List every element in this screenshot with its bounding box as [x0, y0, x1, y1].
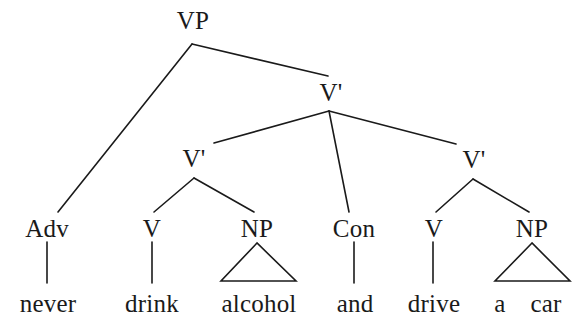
branch-vp-vbar [192, 44, 328, 76]
triangle-np-a-car [495, 243, 570, 281]
node-v-bar-left: V' [183, 146, 206, 171]
tree-branches [0, 0, 588, 325]
node-vp: VP [177, 8, 209, 33]
node-con: Con [333, 216, 375, 241]
node-v-right: V [425, 216, 443, 241]
syntax-tree-figure: VP V' V' V' Adv V NP Con V NP never drin… [0, 0, 588, 325]
node-adv: Adv [25, 216, 69, 241]
branch-vbar-right [329, 111, 456, 144]
branch-right-vbar-np [473, 179, 529, 212]
leaf-car: car [530, 291, 561, 316]
leaf-a: a [494, 291, 505, 316]
node-v-left: V [143, 216, 161, 241]
node-v-bar-top: V' [320, 80, 343, 105]
node-np-left: NP [241, 216, 273, 241]
leaf-never: never [20, 291, 77, 316]
node-np-right: NP [516, 216, 548, 241]
leaf-drink: drink [125, 291, 179, 316]
branch-vbar-con [329, 111, 349, 212]
branch-vp-adv [58, 44, 192, 212]
branch-left-vbar-np [194, 178, 254, 212]
leaf-alcohol: alcohol [222, 291, 297, 316]
leaf-drive: drive [408, 291, 460, 316]
branch-right-vbar-v [436, 179, 473, 212]
node-v-bar-right: V' [463, 147, 486, 172]
branch-vbar-left [214, 111, 329, 143]
branch-left-vbar-v [154, 178, 194, 212]
leaf-and: and [337, 291, 374, 316]
triangle-np-alcohol [221, 243, 296, 281]
